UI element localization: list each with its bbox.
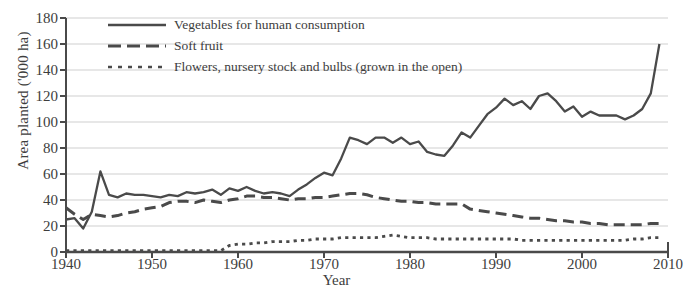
series-line-1 [66, 194, 659, 225]
legend-swatch-dotted-icon [107, 61, 167, 73]
legend-item-flowers: Flowers, nursery stock and bulbs (grown … [107, 56, 462, 77]
chart-legend: Vegetables for human consumption Soft fr… [107, 14, 462, 77]
legend-item-vegetables: Vegetables for human consumption [107, 14, 462, 35]
legend-item-soft-fruit: Soft fruit [107, 35, 462, 56]
legend-label-flowers: Flowers, nursery stock and bulbs (grown … [174, 59, 462, 75]
legend-label-vegetables: Vegetables for human consumption [174, 17, 365, 33]
legend-swatch-dashed-icon [107, 40, 167, 52]
series-line-2 [66, 235, 659, 251]
legend-swatch-solid-icon [107, 19, 167, 31]
legend-label-soft-fruit: Soft fruit [174, 38, 223, 54]
